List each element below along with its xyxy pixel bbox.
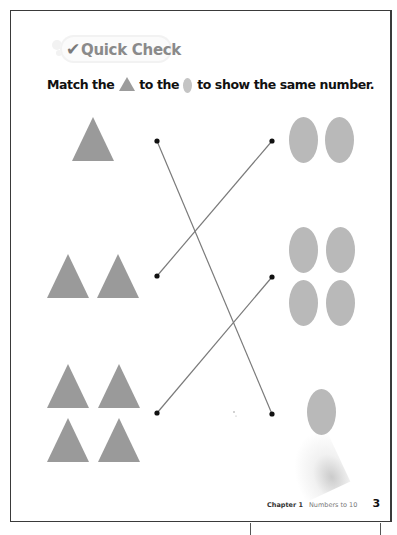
left-dot-row1[interactable] [154, 138, 159, 143]
match-line-3-to-2 [157, 277, 272, 413]
left-dot-row2[interactable] [154, 273, 159, 278]
page-number: 3 [372, 498, 380, 510]
match-line-2-to-1 [157, 141, 272, 276]
speck [233, 411, 235, 413]
page-footer: Chapter 1 Numbers to 10 3 [267, 498, 380, 510]
left-dot-row3[interactable] [154, 410, 159, 415]
right-dot-row1[interactable] [269, 138, 274, 143]
right-dot-row3[interactable] [269, 411, 274, 416]
match-line-1-to-3 [157, 141, 272, 414]
right-dot-row2[interactable] [269, 274, 274, 279]
speck [235, 415, 236, 416]
footer-topic: Numbers to 10 [309, 499, 357, 511]
footer-chapter: Chapter 1 [267, 499, 303, 511]
